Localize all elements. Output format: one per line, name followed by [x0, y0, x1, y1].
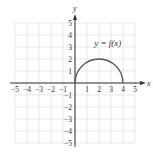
x-axis-label: x	[146, 79, 151, 88]
x-tick-label: 3	[109, 85, 113, 94]
x-tick-label: 2	[97, 85, 101, 94]
x-tick-label: 4	[121, 85, 125, 94]
x-tick-label: −3	[35, 85, 43, 94]
x-tick-label: 5	[133, 85, 137, 94]
y-tick-label: −5	[64, 139, 72, 148]
y-tick-label: 4	[68, 31, 72, 40]
axes: x y	[10, 4, 151, 147]
y-axis-label: y	[72, 4, 77, 13]
x-tick-label: −5	[11, 85, 19, 94]
y-tick-label: −1	[64, 91, 72, 100]
x-tick-label: 1	[85, 85, 89, 94]
y-tick-label: 2	[68, 55, 72, 64]
y-tick-label: −2	[64, 103, 72, 112]
x-tick-label: −4	[23, 85, 31, 94]
x-tick-label: −2	[47, 85, 55, 94]
y-tick-label: 1	[68, 67, 72, 76]
y-axis-arrow-icon	[73, 14, 77, 20]
y-tick-label: −3	[64, 115, 72, 124]
function-label: y = f(x)	[93, 38, 121, 48]
x-axis-arrow-icon	[140, 81, 146, 85]
y-tick-label: 5	[68, 19, 72, 28]
y-tick-label: 3	[68, 43, 72, 52]
y-tick-label: −4	[64, 127, 72, 136]
function-graph: x y −5−4−3−2−11234512345−1−2−3−4−5 y = f…	[0, 0, 153, 153]
